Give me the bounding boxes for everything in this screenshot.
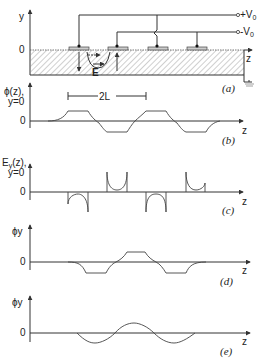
- z-axis-label: z: [242, 265, 247, 276]
- y-axis-label: ϕy: [12, 226, 23, 237]
- panel-d-caption: (d): [220, 275, 233, 288]
- panel-a: y 0 z +V0 -V0: [19, 9, 257, 95]
- electrode-2: [108, 47, 128, 50]
- interdigital-electrode-figure: y 0 z +V0 -V0: [0, 0, 258, 360]
- panel-b-caption: (b): [222, 134, 235, 147]
- y-axis-label-2: y=0: [8, 96, 25, 107]
- panel-a-caption: (a): [222, 82, 235, 95]
- panel-e-caption: (e): [220, 345, 233, 358]
- z-axis-label: z: [242, 125, 247, 136]
- panel-c: Ey(z), y=0 0 z (c): [2, 157, 247, 217]
- panel-e: ϕy 0 z (e): [12, 296, 250, 358]
- electrode-3: [148, 47, 168, 50]
- zero-label: 0: [20, 115, 26, 126]
- ground-icon: [244, 80, 254, 86]
- zero-label: 0: [20, 256, 26, 267]
- y-axis-label-2: y=0: [8, 167, 25, 178]
- field-label: E: [92, 67, 99, 78]
- wire-positive-drop: [154, 15, 157, 46]
- wire-negative: [117, 32, 236, 46]
- y-axis-label: ϕy: [12, 297, 23, 308]
- period-label: 2L: [99, 91, 111, 102]
- panel-d: ϕy 0 z (d): [12, 225, 250, 288]
- y-axis-label: y: [19, 11, 24, 22]
- terminal-positive-label: +V0: [240, 9, 257, 21]
- z-axis-label: z: [242, 196, 247, 207]
- z-axis-label: z: [242, 336, 247, 347]
- terminal-negative-label: -V0: [240, 26, 254, 38]
- zero-label: 0: [20, 327, 26, 338]
- panel-b: ϕ(z), y=0 0 z 2L (b): [4, 83, 247, 147]
- panel-c-caption: (c): [222, 204, 235, 217]
- zero-label: 0: [20, 186, 26, 197]
- substrate: [30, 50, 244, 75]
- y-zero-label: 0: [19, 44, 25, 55]
- z-axis-label: z: [246, 53, 251, 64]
